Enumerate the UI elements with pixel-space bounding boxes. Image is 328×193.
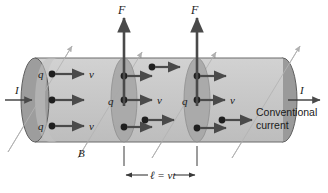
conventional-current-label-line2: current [256, 119, 289, 131]
charge-dot [49, 97, 56, 104]
charge-label-left-top: q [38, 68, 44, 80]
charge-label-disc1: q [108, 95, 114, 107]
velocity-label-left-top: v [89, 68, 94, 80]
charge-label-left-bottom: q [38, 120, 44, 132]
charge-label-disc2: q [182, 95, 188, 107]
velocity-label-disc2: v [230, 94, 235, 106]
velocity-label-disc1: v [157, 94, 162, 106]
charge-dot [194, 125, 201, 132]
velocity-label-left-bottom: v [89, 120, 94, 132]
force-label-left: F [117, 3, 126, 17]
physics-diagram-current-in-magnetic-field: F F I I B q q q q v v v v Conventional c… [0, 0, 328, 193]
charge-dot [219, 117, 226, 124]
charge-dot [49, 123, 56, 130]
current-out-label: I [299, 84, 305, 96]
current-in-label: I [14, 84, 20, 96]
charge-dot [142, 117, 149, 124]
charge-dot [49, 71, 56, 78]
magnetic-field-label: B [78, 147, 85, 159]
charge-dot [121, 124, 128, 131]
force-label-right: F [190, 3, 199, 17]
conventional-current-label-line1: Conventional [256, 106, 317, 118]
length-equation-label: ℓ = vt [150, 169, 176, 181]
charge-dot [149, 64, 156, 71]
